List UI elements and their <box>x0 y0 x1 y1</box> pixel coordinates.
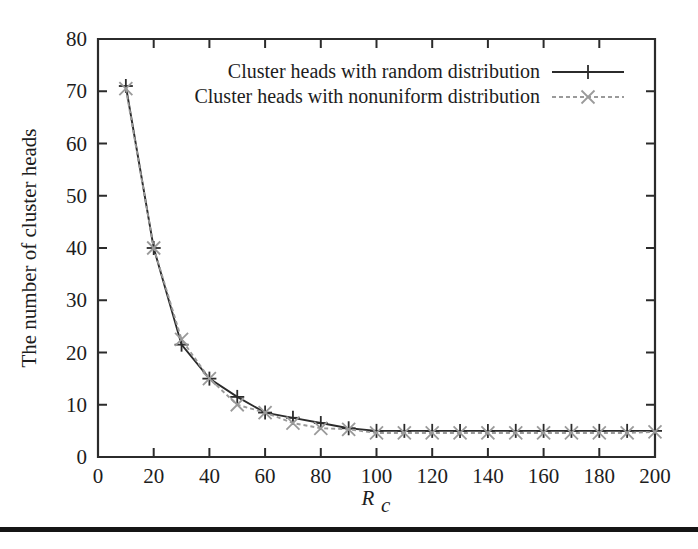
data-series-layer <box>119 79 662 439</box>
y-tick-label: 20 <box>66 341 87 365</box>
x-axis-title-subscript: c <box>381 493 391 517</box>
chart-canvas: 020406080100120140160180200 010203040506… <box>0 0 698 549</box>
legend-label-1: Cluster heads with random distribution <box>228 60 540 82</box>
series-2 <box>119 82 661 439</box>
footer-rule <box>0 527 698 532</box>
x-axis-title-base: R <box>361 486 375 510</box>
x-tick-label: 200 <box>639 464 671 488</box>
y-tick-label: 30 <box>66 288 87 312</box>
figure-container: 020406080100120140160180200 010203040506… <box>0 0 698 549</box>
x-tick-label: 0 <box>93 464 104 488</box>
x-tick-label: 20 <box>143 464 164 488</box>
y-tick-label: 40 <box>66 236 87 260</box>
x-axis-title: R c <box>361 486 391 517</box>
y-tick-label: 50 <box>66 184 87 208</box>
x-tick-label: 80 <box>310 464 331 488</box>
x-tick-label: 40 <box>199 464 220 488</box>
y-tick-label: 10 <box>66 393 87 417</box>
x-tick-label: 160 <box>528 464 560 488</box>
y-axis-title: The number of cluster heads <box>17 128 41 367</box>
y-tick-label: 80 <box>66 27 87 51</box>
x-tick-label: 120 <box>416 464 448 488</box>
chart-legend: Cluster heads with random distributionCl… <box>194 60 624 107</box>
legend-label-2: Cluster heads with nonuniform distributi… <box>194 85 540 107</box>
x-axis-tick-labels: 020406080100120140160180200 <box>93 464 671 488</box>
x-tick-label: 100 <box>361 464 393 488</box>
y-tick-label: 60 <box>66 132 87 156</box>
x-tick-label: 180 <box>584 464 616 488</box>
y-axis-tick-labels: 01020304050607080 <box>66 27 87 469</box>
x-tick-label: 140 <box>472 464 504 488</box>
y-tick-label: 0 <box>77 445 88 469</box>
series-line <box>126 89 655 433</box>
series-1 <box>119 79 662 438</box>
y-tick-label: 70 <box>66 79 87 103</box>
x-tick-label: 60 <box>255 464 276 488</box>
